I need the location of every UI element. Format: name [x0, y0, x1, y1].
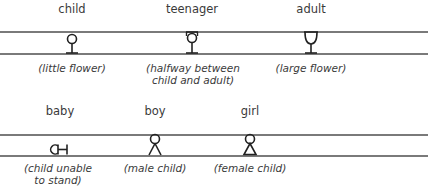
note-boy-text: (male child) [124, 162, 187, 174]
note-child-text: (little flower) [38, 62, 106, 74]
note-teenager-line-2: child and adult) [146, 74, 240, 86]
note-adult-text: (large flower) [276, 62, 347, 74]
note-teenager-line-1: (halfway between [146, 62, 240, 74]
large-flower-icon [301, 30, 321, 55]
note-baby-line-2: to stand) [24, 174, 92, 186]
male-child-icon [145, 133, 165, 156]
note-child: (little flower) [38, 62, 106, 74]
note-baby-line-1: (child unable [24, 162, 92, 174]
label-baby: baby [46, 104, 74, 118]
note-adult: (large flower) [276, 62, 347, 74]
label-teenager: teenager [166, 2, 218, 16]
label-child: child [58, 2, 85, 16]
note-girl: (female child) [214, 162, 287, 174]
medium-flower-icon [182, 30, 202, 55]
little-flower-icon [62, 31, 82, 55]
note-boy: (male child) [124, 162, 187, 174]
note-teenager: (halfway between child and adult) [146, 62, 240, 86]
lying-child-icon [48, 143, 72, 156]
label-girl: girl [241, 104, 259, 118]
label-adult: adult [296, 2, 325, 16]
note-girl-text: (female child) [214, 162, 287, 174]
staff-line-top-2 [0, 134, 428, 136]
female-child-icon [240, 133, 260, 156]
note-baby: (child unable to stand) [24, 162, 92, 186]
label-boy: boy [144, 104, 165, 118]
